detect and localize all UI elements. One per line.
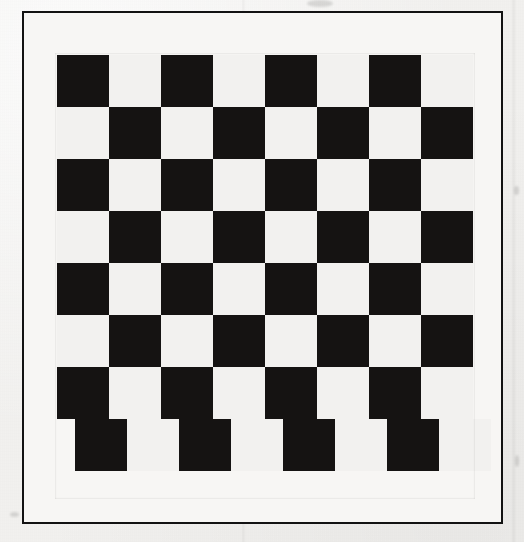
board-square-dark [265, 263, 317, 315]
board-square-light [439, 419, 491, 471]
board-square-dark [369, 159, 421, 211]
board-square-light [421, 367, 473, 419]
board-square-dark [265, 159, 317, 211]
board-row [57, 55, 473, 107]
board-square-dark [161, 55, 213, 107]
board-square-light [109, 159, 161, 211]
board-square-light [57, 315, 109, 367]
board-square-light [317, 367, 369, 419]
board-square-light [265, 107, 317, 159]
board-square-dark [421, 211, 473, 263]
board-square-light [213, 263, 265, 315]
board-square-light [369, 211, 421, 263]
board-square-light [109, 55, 161, 107]
board-square-dark [369, 367, 421, 419]
board-square-dark [57, 263, 109, 315]
board-square-light [109, 367, 161, 419]
board-square-light [213, 159, 265, 211]
smudge-bottom-left [10, 512, 19, 517]
board-square-light [369, 107, 421, 159]
board-square-dark [369, 263, 421, 315]
board-row [57, 211, 473, 263]
smudge-top [307, 0, 333, 7]
board-square-dark [213, 315, 265, 367]
board-square-dark [317, 211, 369, 263]
board-square-light [317, 263, 369, 315]
board-square-light [127, 419, 179, 471]
board-square-dark [75, 419, 127, 471]
board-square-light [231, 419, 283, 471]
board-square-light [265, 315, 317, 367]
board-square-light [161, 211, 213, 263]
smudge-right-upper [514, 186, 519, 195]
board-square-light [57, 107, 109, 159]
board-square-light [213, 55, 265, 107]
board-square-dark [161, 367, 213, 419]
board-row [75, 419, 491, 471]
board-square-light [213, 367, 265, 419]
board-square-dark [161, 159, 213, 211]
board-row [57, 315, 473, 367]
board-square-dark [283, 419, 335, 471]
board-row [57, 107, 473, 159]
board-square-light [161, 315, 213, 367]
board-square-dark [161, 263, 213, 315]
board-square-dark [109, 315, 161, 367]
board-square-light [109, 263, 161, 315]
board-row [57, 159, 473, 211]
board-square-light [265, 211, 317, 263]
board-square-light [421, 159, 473, 211]
board-square-dark [109, 107, 161, 159]
board-square-light [161, 107, 213, 159]
checkerboard [57, 55, 473, 471]
board-square-dark [387, 419, 439, 471]
board-square-dark [57, 55, 109, 107]
board-square-light [421, 263, 473, 315]
board-square-dark [213, 211, 265, 263]
board-square-light [369, 315, 421, 367]
smudge-right-lower [515, 455, 519, 467]
board-square-light [335, 419, 387, 471]
board-row [57, 367, 473, 419]
board-square-light [317, 159, 369, 211]
board-row [57, 263, 473, 315]
board-square-dark [179, 419, 231, 471]
board-square-dark [317, 315, 369, 367]
board-square-dark [109, 211, 161, 263]
board-square-dark [265, 367, 317, 419]
scanned-figure-page [0, 0, 524, 542]
board-square-dark [213, 107, 265, 159]
board-square-dark [421, 315, 473, 367]
board-square-dark [421, 107, 473, 159]
board-square-light [57, 211, 109, 263]
board-square-dark [369, 55, 421, 107]
board-square-dark [57, 367, 109, 419]
board-square-dark [317, 107, 369, 159]
board-square-dark [57, 159, 109, 211]
board-square-light [317, 55, 369, 107]
board-square-dark [265, 55, 317, 107]
board-square-light [421, 55, 473, 107]
